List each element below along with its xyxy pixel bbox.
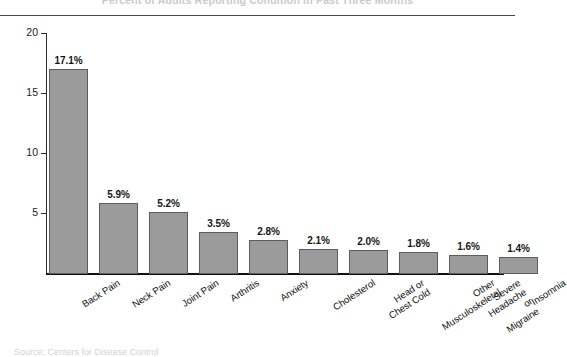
source-note: Source: Centers for Disease Control — [14, 347, 159, 357]
bar[interactable] — [349, 250, 388, 274]
bar[interactable] — [249, 240, 288, 274]
bar-value-label: 3.5% — [207, 218, 229, 229]
bar-group[interactable]: 1.6% — [449, 237, 488, 274]
chart-title-remnant: Percent of Adults Reporting Condition in… — [0, 0, 515, 6]
bar[interactable] — [449, 255, 488, 274]
bar-value-label: 5.2% — [157, 198, 179, 209]
y-tick-label: 20 — [26, 26, 38, 39]
bar-group[interactable]: 1.8% — [399, 234, 438, 274]
bar-group[interactable]: 5.9% — [99, 185, 138, 274]
bar-value-label: 2.8% — [257, 226, 279, 237]
x-axis-label: Insomnia — [529, 277, 567, 307]
bar-group[interactable]: 2.0% — [349, 232, 388, 274]
bar-value-label: 17.1% — [55, 55, 83, 66]
bar-group[interactable]: 2.1% — [299, 231, 338, 274]
y-tick-label: 5 — [32, 206, 38, 219]
bar-value-label: 5.9% — [107, 189, 129, 200]
bar-group[interactable]: 1.4% — [499, 239, 538, 274]
x-axis-label: Anxiety — [278, 277, 310, 303]
x-axis-label: Arthritis — [228, 277, 261, 304]
bar-group[interactable]: 17.1% — [49, 51, 88, 274]
bar-group[interactable]: 2.8% — [249, 222, 288, 274]
bar-value-label: 1.6% — [457, 241, 479, 252]
bar[interactable] — [299, 249, 338, 274]
bar[interactable] — [399, 252, 438, 274]
bar-value-label: 1.8% — [407, 238, 429, 249]
bar-series: 17.1%5.9%5.2%3.5%2.8%2.1%2.0%1.8%1.6%1.4… — [46, 33, 508, 274]
bar[interactable] — [99, 203, 138, 274]
y-tick-label: 10 — [26, 146, 38, 159]
top-rule-divider — [0, 15, 515, 16]
bar-value-label: 2.0% — [357, 236, 379, 247]
bar-group[interactable]: 3.5% — [199, 214, 238, 274]
bar[interactable] — [199, 232, 238, 274]
bar[interactable] — [149, 212, 188, 274]
x-axis-label: Neck Pain — [129, 277, 171, 310]
x-axis-label: Joint Pain — [179, 277, 220, 309]
bar-value-label: 2.1% — [307, 235, 329, 246]
bar[interactable] — [499, 257, 538, 274]
y-tick-label: 15 — [26, 86, 38, 99]
x-axis-label: Head or Chest Cold — [380, 277, 432, 321]
bar-value-label: 1.4% — [507, 243, 529, 254]
bar-group[interactable]: 5.2% — [149, 194, 188, 274]
bar[interactable] — [49, 69, 88, 274]
x-axis-label: Cholesterol — [330, 277, 376, 313]
x-axis-label: Back Pain — [79, 277, 121, 310]
